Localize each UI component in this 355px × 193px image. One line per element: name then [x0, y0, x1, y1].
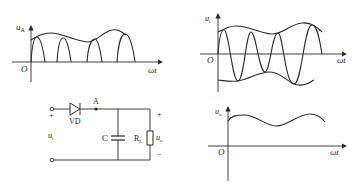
ui-origin-label: O [207, 55, 214, 65]
diode-icon [70, 103, 80, 115]
uo-output-curve [228, 114, 325, 126]
uA-pulse-1 [31, 37, 45, 62]
plot-ui: ui O ωt [200, 14, 346, 92]
load-label: RL [134, 134, 142, 144]
resistor-icon [147, 131, 153, 145]
output-minus-label: − [157, 150, 162, 159]
uo-xlabel: ωt [330, 147, 339, 157]
capacitor-label: C [102, 133, 108, 143]
uA-pulse-2 [57, 38, 71, 62]
input-plus-label: + [49, 111, 54, 120]
diode-label: VD [69, 117, 81, 126]
uo-origin-label: O [218, 147, 225, 157]
plot-uo: uo O ωt [208, 107, 346, 181]
rectifier-circuit: VD A C RL uo ui + + − [48, 97, 163, 162]
uA-pulse-4 [117, 34, 135, 62]
ui-upper-envelope [218, 23, 322, 34]
plot-uA: uA O ωt [12, 22, 162, 82]
input-terminal-bottom [50, 158, 54, 162]
ui-ylabel: ui [205, 14, 211, 24]
ui-xlabel: ωt [337, 55, 346, 65]
capacitor-icon [111, 136, 125, 140]
uA-ylabel: uA [16, 22, 26, 33]
node-A-dot [94, 107, 97, 110]
uA-envelope-curve [31, 30, 126, 42]
uA-pulse-3 [87, 39, 102, 62]
rectifier-diagram: uA O ωt ui O ωt [0, 0, 355, 193]
uo-ylabel: uo [215, 107, 222, 117]
uA-origin-label: O [21, 64, 28, 74]
output-plus-label: + [157, 110, 162, 119]
output-voltage-label: uo [156, 133, 163, 143]
uA-xlabel: ωt [148, 65, 157, 75]
node-A-label: A [93, 97, 99, 106]
input-voltage-label: ui [48, 131, 54, 141]
